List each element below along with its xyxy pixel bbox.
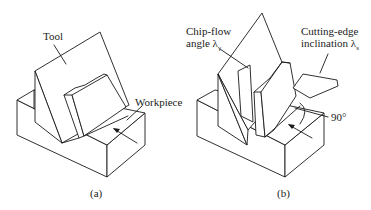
cutting-edge-leader [320, 54, 328, 73]
panel-a: Tool Workpiece (a) [17, 30, 182, 200]
caption-b: (b) [277, 187, 290, 200]
angle-90-label: 90° [331, 111, 346, 123]
workpiece-label: Workpiece [135, 96, 182, 108]
cutting-edge-label-line2: inclination λs [301, 37, 359, 52]
cutting-tool-diagram: Tool Workpiece (a) [0, 0, 371, 210]
tool-label: Tool [43, 30, 63, 42]
inclination-plane [293, 74, 338, 98]
cutting-edge-label-line1: Cutting-edge [301, 25, 359, 37]
caption-a: (a) [90, 187, 103, 200]
chip-flow-label-line1: Chip-flow [186, 25, 231, 37]
panel-b: Chip-flow angle λγ Cutting-edge inclinat… [186, 13, 359, 200]
chip-flow-label-line2: angle λγ [186, 37, 221, 52]
